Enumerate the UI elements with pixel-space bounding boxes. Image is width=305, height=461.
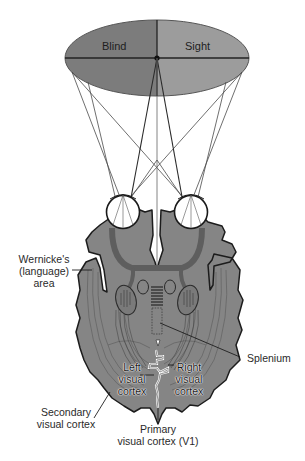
blind-field-label: Blind: [102, 40, 126, 52]
secondary-visual-cortex-label: Secondary visual cortex: [34, 406, 98, 430]
visual-pathway-diagram: Blind Sight Wernicke's (language) area S…: [0, 0, 305, 461]
right-visual-cortex-label: Right visual cortex: [170, 361, 208, 397]
brain: [76, 208, 243, 424]
left-eye: [107, 195, 140, 229]
left-visual-cortex-label: Left visual cortex: [114, 361, 150, 397]
right-eye: [175, 195, 208, 229]
diagram-canvas: [0, 0, 305, 461]
sight-field-label: Sight: [185, 40, 210, 52]
wernicke-label: Wernicke's (language) area: [14, 253, 74, 289]
splenium-label: Splenium: [247, 352, 291, 364]
corpus-callosum: [151, 287, 163, 305]
primary-visual-cortex-label: Primary visual cortex (V1): [112, 423, 204, 447]
